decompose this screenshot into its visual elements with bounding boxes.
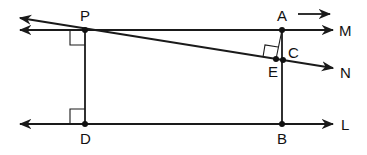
- point-p: [82, 27, 88, 33]
- label-d: D: [80, 130, 91, 147]
- label-b: B: [277, 130, 287, 147]
- right-angle-d-icon: [70, 109, 85, 124]
- label-m: M: [339, 22, 352, 39]
- right-angle-e-icon: [263, 45, 278, 57]
- line-n: [20, 18, 333, 68]
- label-n: N: [340, 64, 351, 81]
- point-d: [82, 121, 88, 127]
- label-e: E: [268, 63, 278, 80]
- point-b: [279, 121, 285, 127]
- point-a: [279, 27, 285, 33]
- label-a: A: [277, 7, 287, 24]
- label-c: C: [288, 44, 299, 61]
- label-p: P: [80, 7, 90, 24]
- label-l: L: [341, 116, 349, 133]
- right-angle-p-icon: [70, 30, 85, 45]
- point-c: [280, 57, 286, 63]
- point-e: [273, 56, 279, 62]
- geometry-diagram: P A C E D B M N L: [0, 0, 367, 155]
